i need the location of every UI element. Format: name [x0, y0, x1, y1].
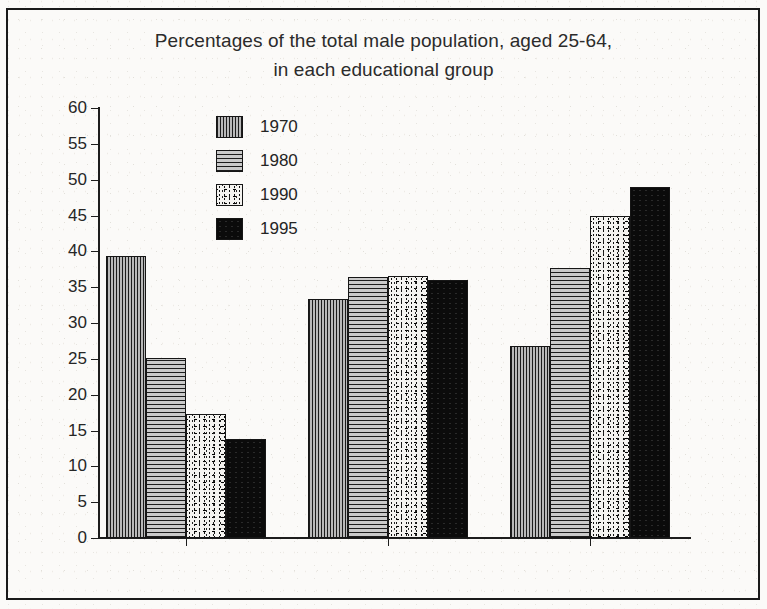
y-axis-tick — [91, 251, 98, 252]
y-axis-tick-label: 45 — [68, 206, 87, 226]
bar-low-ed-1990 — [186, 414, 226, 538]
legend-item-1980: 1980 — [216, 144, 298, 178]
y-axis-tick-label: 35 — [68, 277, 87, 297]
y-axis-tick-label: 30 — [68, 313, 87, 333]
y-axis-tick-label: 40 — [68, 241, 87, 261]
plot-area: 051015202530354045505560 Low-EdMid-EdHig… — [99, 108, 691, 538]
y-axis-tick — [91, 502, 98, 503]
bar-high-ed-1990 — [590, 216, 630, 539]
x-axis-tick — [186, 538, 187, 546]
bar-high-ed-1980 — [550, 268, 590, 538]
y-axis-tick-label-wrap: 50 — [99, 180, 100, 181]
bar-mid-ed-1995 — [428, 280, 468, 538]
y-axis-tick — [91, 216, 98, 217]
legend-swatch-1995 — [216, 218, 243, 240]
x-axis-tick — [590, 538, 591, 546]
y-axis-tick — [91, 431, 98, 432]
bar-mid-ed-1990 — [388, 276, 428, 538]
y-axis-tick-label-wrap: 10 — [99, 466, 100, 467]
y-axis-tick — [91, 323, 98, 324]
y-axis-tick-label: 50 — [68, 170, 87, 190]
bar-high-ed-1970 — [510, 346, 550, 538]
legend-swatch-1970 — [216, 116, 243, 138]
y-axis-tick-label-wrap: 15 — [99, 431, 100, 432]
bar-mid-ed-1980 — [348, 277, 388, 538]
y-axis-tick-label-wrap: 20 — [99, 395, 100, 396]
chart-legend: 1970198019901995 — [216, 110, 298, 246]
y-axis-tick-label-wrap: 55 — [99, 144, 100, 145]
chart-screenshot: Percentages of the total male population… — [0, 0, 767, 609]
legend-label-1990: 1990 — [260, 185, 298, 205]
y-axis-tick-label: 0 — [78, 528, 87, 548]
y-axis-tick — [91, 466, 98, 467]
bar-low-ed-1980 — [146, 358, 186, 538]
y-axis-tick-label-wrap: 5 — [99, 502, 100, 503]
chart-title-line-2: in each educational group — [0, 55, 767, 84]
y-axis-tick — [91, 395, 98, 396]
y-axis-tick — [91, 180, 98, 181]
y-axis-tick-label-wrap: 40 — [99, 251, 100, 252]
y-axis-tick — [91, 108, 98, 109]
x-axis-tick — [388, 538, 389, 546]
chart-title-line-1: Percentages of the total male population… — [0, 26, 767, 55]
y-axis-tick — [91, 359, 98, 360]
y-axis-tick-label: 5 — [78, 492, 87, 512]
legend-item-1970: 1970 — [216, 110, 298, 144]
bar-low-ed-1970 — [106, 256, 146, 538]
y-axis-tick-label: 55 — [68, 134, 87, 154]
y-axis-tick-label: 25 — [68, 349, 87, 369]
legend-item-1990: 1990 — [216, 178, 298, 212]
y-axis-tick-label-wrap: 0 — [99, 538, 100, 539]
y-axis-tick-label-wrap: 45 — [99, 216, 100, 217]
y-axis-tick-label-wrap: 35 — [99, 287, 100, 288]
y-axis-tick-label: 60 — [68, 98, 87, 118]
legend-label-1995: 1995 — [260, 219, 298, 239]
y-axis-tick-label-wrap: 60 — [99, 108, 100, 109]
legend-swatch-1990 — [216, 184, 243, 206]
bar-mid-ed-1970 — [308, 299, 348, 538]
bar-high-ed-1995 — [630, 187, 670, 538]
y-axis-tick — [91, 538, 98, 539]
legend-label-1980: 1980 — [260, 151, 298, 171]
legend-label-1970: 1970 — [260, 117, 298, 137]
y-axis-tick-label: 10 — [68, 456, 87, 476]
y-axis-tick — [91, 287, 98, 288]
y-axis-tick-label: 15 — [68, 421, 87, 441]
y-axis-tick — [91, 144, 98, 145]
y-axis-tick-label-wrap: 25 — [99, 359, 100, 360]
y-axis-tick-label: 20 — [68, 385, 87, 405]
y-axis-tick-label-wrap: 30 — [99, 323, 100, 324]
legend-item-1995: 1995 — [216, 212, 298, 246]
legend-swatch-1980 — [216, 150, 243, 172]
bar-low-ed-1995 — [226, 439, 266, 538]
chart-title: Percentages of the total male population… — [0, 26, 767, 84]
